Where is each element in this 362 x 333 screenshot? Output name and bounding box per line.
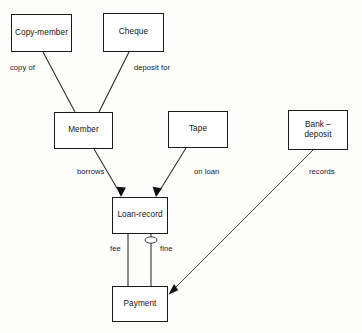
edge-label-on-loan: on loan [194,167,219,176]
edge-records [170,150,313,293]
entity-box-cheque[interactable]: Cheque [103,13,164,52]
entity-box-member[interactable]: Member [54,112,113,149]
arrowhead-on-loan [153,187,162,197]
edge-on-loan [157,148,186,195]
edge-label-fine: fine [160,244,172,253]
entity-label-cheque: Cheque [119,27,148,37]
edge-label-fee: fee [110,244,121,253]
entity-label-member: Member [68,125,99,135]
edge-copy-of [43,52,75,112]
edge-label-records: records [309,167,335,176]
entity-box-copy-member[interactable]: Copy-member [11,14,72,52]
entity-label-tape: Tape [189,124,207,134]
edge-label-deposit-for: deposit for [134,63,170,72]
entity-box-loan-record[interactable]: Loan-record [112,197,168,234]
entity-label-copy-member: Copy-member [15,28,68,38]
fine-cardinality-oval-icon [145,237,157,243]
diagram-canvas: Copy-member Cheque Member Tape Bank – de… [0,0,362,333]
arrowhead-borrows [117,187,126,197]
entity-box-tape[interactable]: Tape [168,111,228,148]
edge-label-borrows: borrows [77,167,104,176]
entity-label-payment: Payment [123,299,156,309]
entity-box-bank-deposit[interactable]: Bank – deposit [288,110,348,150]
entity-label-bank-deposit: Bank – deposit [304,120,331,141]
entity-label-loan-record: Loan-record [117,210,162,220]
entity-box-payment[interactable]: Payment [112,286,168,322]
edge-deposit-for [99,52,129,112]
edge-label-copy-of: copy of [10,63,35,72]
